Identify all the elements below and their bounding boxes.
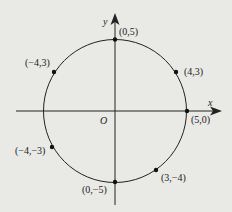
point-label-neg4-neg3: (−4,−3): [15, 146, 45, 156]
x-axis-label: x: [208, 98, 212, 108]
point-0-neg5: [113, 180, 117, 184]
coordinate-diagram: y x O (0,5) (4,3) (5,0) (3,−4) (0,−5) (−…: [0, 0, 232, 212]
point-label-0-neg5: (0,−5): [82, 185, 107, 195]
point-neg4-neg3: [50, 145, 54, 149]
y-axis-label: y: [103, 17, 107, 27]
point-label-3-neg4: (3,−4): [161, 173, 186, 183]
point-label-neg4-3: (−4,3): [25, 58, 50, 68]
point-label-4-3: (4,3): [184, 67, 203, 77]
point-0-5: [113, 37, 117, 41]
point-neg4-3: [52, 70, 56, 74]
point-3-neg4: [154, 168, 158, 172]
point-4-3: [174, 70, 178, 74]
diagram-canvas: [0, 0, 232, 212]
origin-label: O: [100, 116, 107, 126]
point-label-0-5: (0,5): [119, 27, 138, 37]
point-5-0: [185, 109, 189, 113]
point-label-5-0: (5,0): [191, 115, 210, 125]
